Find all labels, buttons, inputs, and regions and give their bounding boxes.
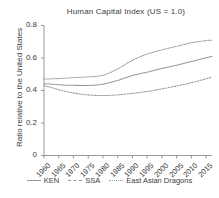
legend-item-ssa[interactable]: SSA: [68, 176, 100, 185]
legend-swatch-icon: [27, 180, 41, 181]
legend-item-ken[interactable]: KEN: [27, 176, 59, 185]
y-tick-label: 0: [15, 150, 37, 159]
legend-item-east-asian-dragons[interactable]: East Asian Dragons: [109, 176, 192, 185]
axes-group: [41, 26, 212, 159]
legend-label: KEN: [44, 176, 59, 185]
y-tick-label: 0.4: [15, 85, 37, 94]
y-tick-label: 0.2: [15, 118, 37, 127]
y-tick-label: 0.8: [15, 20, 37, 29]
legend-label: SSA: [85, 176, 100, 185]
series-group: [44, 40, 212, 95]
legend-swatch-icon: [68, 180, 82, 181]
chart-legend: KENSSAEast Asian Dragons: [0, 176, 219, 185]
legend-label: East Asian Dragons: [126, 176, 192, 185]
series-line-east-asian-dragons: [44, 40, 212, 79]
chart-container: Human Capital Index (US = 1.0) Ratio rel…: [0, 0, 219, 198]
series-line-ssa: [44, 77, 212, 96]
y-tick-label: 0.6: [15, 53, 37, 62]
series-line-ken: [44, 56, 212, 85]
legend-swatch-icon: [109, 180, 123, 181]
